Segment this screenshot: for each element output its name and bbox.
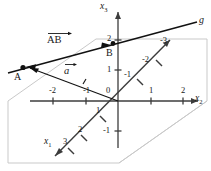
vector-a-line xyxy=(30,68,118,101)
tick-x3-neg1: -1 xyxy=(103,126,110,135)
vector-a-overbar xyxy=(64,62,69,65)
tick-origin: 0 xyxy=(106,86,110,95)
tick-x2-pos1: 1 xyxy=(149,86,153,95)
axis-label-x3: x3 xyxy=(100,2,107,13)
vector-ab-overbar xyxy=(47,31,62,34)
vector-label-a: a xyxy=(64,62,69,76)
tick-x1-neg3: -3 xyxy=(160,36,167,45)
tick-x2-neg2: -2 xyxy=(49,86,56,95)
tick-x1-pos2: 2 xyxy=(78,125,82,134)
axis-x2 xyxy=(30,98,198,105)
tick-x1-pos3: 3 xyxy=(63,137,67,146)
tick-x1-pos1: 1 xyxy=(96,106,100,115)
tick-x3-pos2: 2 xyxy=(107,34,111,43)
point-a-marker xyxy=(20,65,25,70)
axis-x3 xyxy=(115,12,122,148)
figure-canvas: x3 x2 x1 -2 -1 1 2 0 1 2 -1 1 2 3 -1 -2 … xyxy=(0,0,211,171)
line-label-g: g xyxy=(199,15,204,25)
point-b-marker xyxy=(111,41,116,46)
axis-label-x2: x2 xyxy=(195,94,202,105)
tick-x1-neg2: -2 xyxy=(142,55,149,64)
tick-x2-pos2: 2 xyxy=(181,86,185,95)
vector-label-ab: AB xyxy=(47,31,62,45)
tick-x3-pos1: 1 xyxy=(107,65,111,74)
tick-x2-neg1: -1 xyxy=(83,86,90,95)
point-label-a: A xyxy=(14,72,21,82)
line-g xyxy=(8,22,197,73)
point-label-b: B xyxy=(106,48,113,58)
axis-label-x1: x1 xyxy=(44,137,51,148)
tick-x1-neg1: -1 xyxy=(124,70,131,79)
vector-a-text: a xyxy=(64,65,69,76)
vector-ab-text: AB xyxy=(47,34,62,45)
